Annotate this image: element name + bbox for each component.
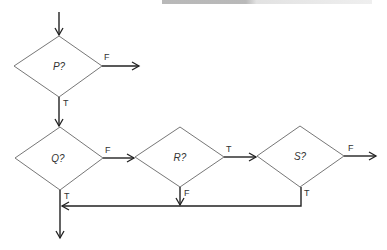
decision-p-label: P? [53, 61, 66, 72]
r-true-label: T [226, 144, 232, 154]
flowchart: P? F T Q? F T R? T F S? F T [0, 0, 387, 250]
r-false-label: F [184, 188, 190, 198]
decision-q-label: Q? [51, 153, 65, 164]
s-true-return-line [62, 187, 301, 206]
decision-r-label: R? [174, 152, 187, 163]
p-true-label: T [63, 98, 69, 108]
q-true-label: T [64, 191, 70, 201]
q-false-label: F [105, 145, 111, 155]
decision-s-label: S? [294, 151, 307, 162]
s-false-label: F [348, 143, 354, 153]
s-true-label: T [304, 188, 310, 198]
p-false-label: F [104, 52, 110, 62]
